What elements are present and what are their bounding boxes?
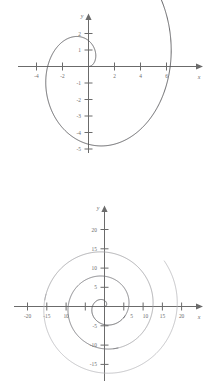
y-tick-label-neg5: -5 — [77, 146, 82, 152]
y-tick-label-5: 5 — [94, 284, 97, 290]
y-tick-label-neg3: -3 — [77, 113, 82, 119]
y-tick-label-15: 15 — [92, 246, 98, 252]
figure-top-svg: -4 -2 2 4 6 2 1 -1 -2 -3 -4 -5 — [0, 0, 218, 195]
figure-bottom-svg: -20 -15 10 5 10 15 20 20 15 10 5 -5 -10 — [0, 195, 218, 390]
x-tick-label-6: 6 — [165, 73, 168, 79]
y-tick-label-10: 10 — [92, 265, 98, 271]
y-tick-label-2: 2 — [78, 31, 81, 37]
y-tick-label-neg15: -15 — [90, 361, 97, 367]
y-tick-label-neg2: -2 — [77, 97, 82, 103]
x-tick-label-neg4: -4 — [34, 73, 39, 79]
x-axis-label: x — [197, 74, 201, 80]
x-tick-label-10: 10 — [143, 313, 149, 319]
figure-bottom: -20 -15 10 5 10 15 20 20 15 10 5 -5 -10 — [0, 195, 218, 390]
figure-stack: -4 -2 2 4 6 2 1 -1 -2 -3 -4 -5 — [0, 0, 218, 390]
x-tick-label-20: 20 — [179, 313, 185, 319]
x-axis-label: x — [197, 314, 201, 320]
x-axis-bottom — [14, 303, 203, 309]
x-tick-label-5: 5 — [130, 313, 133, 319]
x-axis-top — [18, 63, 203, 69]
x-tick-label-neg2: -2 — [60, 73, 65, 79]
y-axis-bottom — [101, 206, 107, 382]
figure-top: -4 -2 2 4 6 2 1 -1 -2 -3 -4 -5 — [0, 0, 218, 195]
y-axis-label: y — [96, 205, 100, 211]
x-tick-label-4: 4 — [139, 73, 142, 79]
y-tick-label-neg4: -4 — [77, 130, 82, 136]
y-tick-label-1: 1 — [78, 47, 81, 53]
x-tick-label-2: 2 — [113, 73, 116, 79]
y-axis-label: y — [80, 13, 84, 19]
y-tick-label-neg1: -1 — [77, 80, 82, 86]
y-tick-label-neg5: -5 — [93, 323, 98, 329]
x-tick-label-15: 15 — [160, 313, 166, 319]
x-tick-label-neg20: -20 — [24, 313, 31, 319]
y-tick-label-20: 20 — [92, 227, 98, 233]
